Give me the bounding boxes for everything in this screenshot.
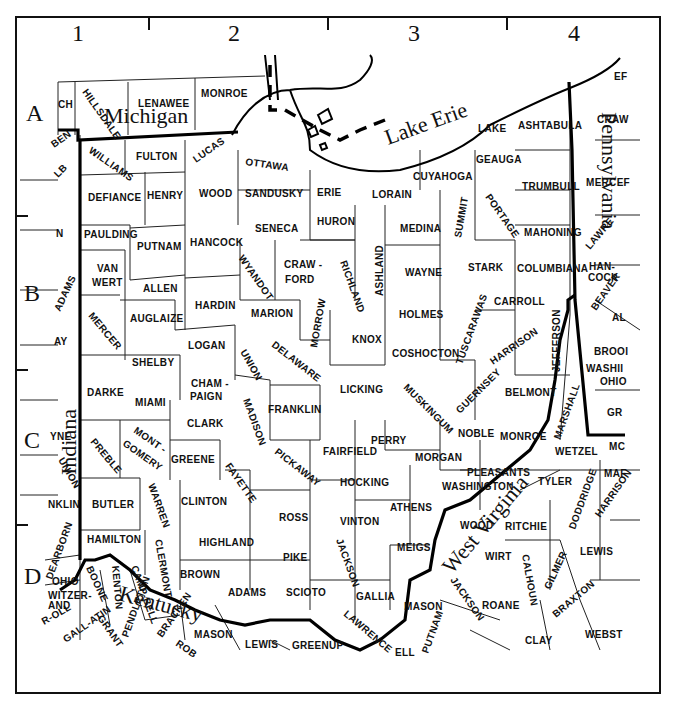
county-label: MARION — [251, 308, 293, 319]
county-label: COLUMBIANA — [517, 263, 588, 274]
county-label: LB — [52, 162, 70, 180]
county-label: BROOI — [594, 346, 628, 357]
county-label: VINTON — [340, 516, 379, 527]
county-label: CARROLL — [494, 296, 545, 307]
county-label: PERRY — [371, 435, 407, 446]
county-label: BROWN — [180, 569, 220, 580]
county-label: PICKAWAY — [273, 446, 323, 488]
county-label: CHAM - — [191, 378, 229, 389]
county-label: SANDUSKY — [245, 188, 304, 199]
county-label: CRAW — [597, 114, 629, 125]
county-label: LUCAS — [191, 135, 227, 165]
county-label: ADAMS — [228, 587, 266, 598]
county-label: HANCOCK — [190, 237, 244, 248]
county-label: LEWIS — [245, 639, 278, 650]
county-label: OHIO — [600, 376, 627, 387]
county-label: FORD — [285, 274, 315, 285]
county-label: HOCKING — [340, 477, 389, 488]
ohio-county-map: Michigan Lake Erie Indiana Pennsylvania … — [0, 0, 677, 717]
county-label: OHIO — [52, 576, 79, 587]
county-label: WOOD — [199, 188, 232, 199]
county-label: LEWIS — [580, 546, 613, 557]
county-label: ROSS — [279, 512, 309, 523]
county-label: LENAWEE — [138, 98, 190, 109]
county-label: WILLIAMS — [87, 145, 136, 184]
county-label: CALHOUN — [520, 553, 540, 606]
county-label: FAYETTE — [223, 461, 259, 505]
county-label: GR — [607, 407, 623, 418]
county-label: COSHOCTON — [392, 348, 460, 359]
county-label: PAIGN — [190, 391, 222, 402]
county-label: PUTNAM — [420, 609, 446, 655]
county-label: MERCER — [86, 310, 124, 352]
county-label: FAIRFIELD — [323, 446, 377, 457]
pennsylvania-counties: EF CRAW MERCEF LAWRE HAN- COCK BEAVER AL… — [583, 71, 630, 418]
county-label: GILMER — [542, 549, 569, 591]
county-label: GEAUGA — [476, 154, 522, 165]
county-label: ASHLAND — [374, 245, 385, 296]
county-label: HARDIN — [195, 300, 236, 311]
county-label: KENTON — [110, 565, 125, 610]
county-label: LAKE — [478, 123, 506, 134]
county-label: HURON — [317, 216, 355, 227]
county-label: MIAMI — [135, 397, 166, 408]
county-label: PIKE — [283, 552, 308, 563]
county-label: WAYNE — [405, 267, 442, 278]
county-label: HAN- — [589, 261, 615, 272]
county-label: MONROE — [500, 431, 547, 442]
county-label: FRANKLIN — [268, 404, 322, 415]
county-label: GUERNSEY — [454, 366, 503, 415]
county-label: MERCEF — [586, 177, 630, 188]
county-label: N — [56, 228, 64, 239]
county-label: ELL — [395, 647, 415, 658]
county-label: RICHLAND — [338, 259, 367, 314]
county-label: MUSKINGUM — [402, 382, 456, 436]
county-label: HENRY — [147, 190, 183, 201]
west-virginia-counties: MARSHALL WETZEL MC MAF PLEASANTS TYLER D… — [395, 382, 634, 658]
county-label: MAHONING — [524, 227, 582, 238]
michigan-ohio-border — [58, 130, 238, 140]
county-label: CUYAHOGA — [413, 171, 473, 182]
county-label: MADISON — [241, 397, 268, 447]
label-lake-erie: Lake Erie — [381, 97, 470, 150]
county-label: CLAY — [525, 635, 553, 646]
county-label: WOOD — [460, 520, 493, 531]
county-label: MEDINA — [400, 223, 441, 234]
ohio-counties: WILLIAMS FULTON LUCAS OTTAWA DEFIANCE HE… — [84, 120, 588, 655]
county-label: HOLMES — [399, 309, 444, 320]
county-label: PAULDING — [84, 229, 138, 240]
county-label: WYANDOT — [236, 253, 275, 303]
lake-erie-boundary-dashed — [270, 65, 385, 140]
county-label: HIGHLAND — [199, 537, 254, 548]
county-label: ERIE — [317, 187, 342, 198]
county-label: EF — [614, 71, 627, 82]
county-label: AL — [612, 312, 626, 323]
county-label: WEBST — [585, 629, 623, 640]
county-label: TRUMBULL — [522, 181, 580, 192]
county-label: CLARK — [187, 418, 224, 429]
county-label: YNE — [50, 431, 71, 442]
county-label: GALLIA — [356, 591, 395, 602]
county-label: KNOX — [352, 334, 382, 345]
label-pennsylvania: Pennsylvania — [597, 112, 622, 230]
county-label: BUTLER — [92, 499, 135, 510]
county-label: LORAIN — [372, 189, 412, 200]
county-label: HAMILTON — [87, 534, 141, 545]
county-label: BRAXTON — [550, 578, 596, 619]
county-label: MASON — [194, 629, 233, 640]
indiana-counties: BEN LB N ADAMS AY YNE UNION NKLIN DEARBO… — [44, 128, 92, 611]
county-label: JACKSON — [448, 575, 486, 623]
county-label: LAWRENCE — [342, 608, 395, 655]
county-label: ATHENS — [390, 502, 432, 513]
county-label: DARKE — [87, 387, 124, 398]
county-label: ALLEN — [143, 283, 178, 294]
county-label: MEIGS — [397, 542, 431, 553]
county-label: DEARBORN — [44, 520, 75, 580]
county-label: PREBLE — [88, 436, 124, 476]
county-label: PUTNAM — [137, 241, 182, 252]
county-label: CLINTON — [181, 496, 227, 507]
county-label: LICKING — [340, 384, 383, 395]
county-label: MORROW — [308, 297, 327, 348]
county-label: GREENUP — [292, 640, 344, 651]
county-label: WASHII — [586, 363, 623, 374]
